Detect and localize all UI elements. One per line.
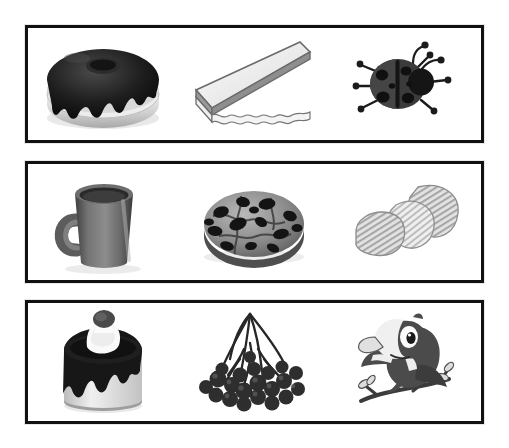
card-row-3: [25, 300, 484, 424]
cell-chocolate-donut[interactable]: [28, 28, 179, 140]
picture-card-board: [0, 0, 509, 448]
cell-cartoon-bird[interactable]: [330, 303, 481, 421]
cake-slice-icon: [188, 36, 320, 132]
ladybug-icon: [351, 38, 459, 130]
donut-icon: [33, 32, 173, 136]
bird-icon: [351, 309, 459, 415]
cookie-icon: [191, 176, 317, 268]
cell-cake-slice[interactable]: [179, 28, 330, 140]
card-row-2: [25, 161, 484, 283]
mug-icon: [47, 168, 159, 276]
potato-chips-icon: [344, 179, 466, 265]
cell-chocolate-chip-cookie[interactable]: [179, 164, 330, 280]
cake-icon: [47, 307, 159, 417]
card-row-1: [25, 25, 484, 143]
cell-coffee-mug[interactable]: [28, 164, 179, 280]
cell-berry-cluster[interactable]: [179, 303, 330, 421]
cell-layer-cake[interactable]: [28, 303, 179, 421]
berries-icon: [192, 309, 316, 415]
cell-ladybug[interactable]: [330, 28, 481, 140]
cell-potato-chips[interactable]: [330, 164, 481, 280]
